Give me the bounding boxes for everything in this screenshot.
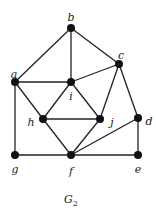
- node-label-j: j: [107, 116, 114, 129]
- node-label-d: d: [145, 115, 152, 128]
- node-label-b: b: [67, 11, 74, 24]
- node-label-c: c: [118, 49, 124, 62]
- edge-c-j: [100, 64, 119, 119]
- edge-f-d: [71, 118, 138, 155]
- edge-i-h: [43, 82, 71, 119]
- node-label-a: a: [11, 68, 18, 81]
- edge-c-d: [119, 64, 138, 118]
- graph-caption: G2: [64, 193, 78, 208]
- edge-a-b: [15, 28, 71, 82]
- node-label-g: g: [11, 163, 18, 176]
- node-b: [67, 24, 75, 32]
- edge-b-c: [71, 28, 119, 64]
- graph-edges: [15, 28, 138, 155]
- edge-h-f: [43, 119, 71, 155]
- graph-diagram: abcdefghij G2: [0, 0, 156, 215]
- node-h: [39, 115, 47, 123]
- node-label-i: i: [69, 90, 73, 103]
- caption-subscript: 2: [73, 199, 78, 208]
- edge-c-i: [71, 64, 119, 82]
- edge-a-h: [15, 82, 43, 119]
- node-e: [134, 151, 142, 159]
- node-label-e: e: [135, 163, 142, 176]
- graph-nodes: [11, 24, 142, 159]
- node-j: [96, 115, 104, 123]
- caption-letter: G: [64, 193, 73, 206]
- node-f: [67, 151, 75, 159]
- node-d: [134, 114, 142, 122]
- edge-i-j: [71, 82, 100, 119]
- node-i: [67, 78, 75, 86]
- node-label-h: h: [27, 116, 34, 129]
- edge-j-f: [71, 119, 100, 155]
- node-label-f: f: [68, 165, 75, 178]
- node-g: [11, 151, 19, 159]
